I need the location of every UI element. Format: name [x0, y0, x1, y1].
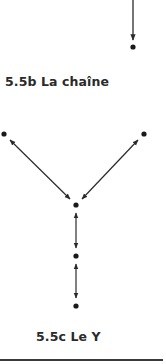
chain-diagram	[130, 0, 135, 50]
node-dot	[130, 44, 135, 49]
figure-caption-y: 5.5c Le Y	[36, 329, 101, 344]
double-arrow-icon	[10, 140, 70, 199]
node-dot	[73, 303, 78, 308]
double-arrow-icon	[82, 140, 138, 199]
node-dot	[1, 131, 6, 136]
network-diagram	[0, 0, 166, 364]
node-dot	[141, 131, 146, 136]
node-dot	[73, 253, 78, 258]
divider-rule	[0, 359, 163, 361]
figure-caption-chain: 5.5b La chaîne	[5, 74, 109, 89]
node-dot	[73, 202, 78, 207]
y-diagram	[1, 131, 146, 308]
